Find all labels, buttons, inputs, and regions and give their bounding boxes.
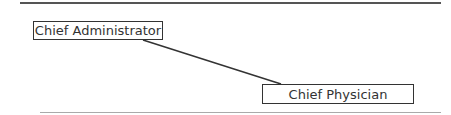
bottom-rule <box>40 112 441 113</box>
node-chief-physician: Chief Physician <box>262 84 414 104</box>
node-label: Chief Administrator <box>35 23 161 38</box>
node-chief-administrator: Chief Administrator <box>33 21 163 40</box>
node-label: Chief Physician <box>289 87 388 102</box>
